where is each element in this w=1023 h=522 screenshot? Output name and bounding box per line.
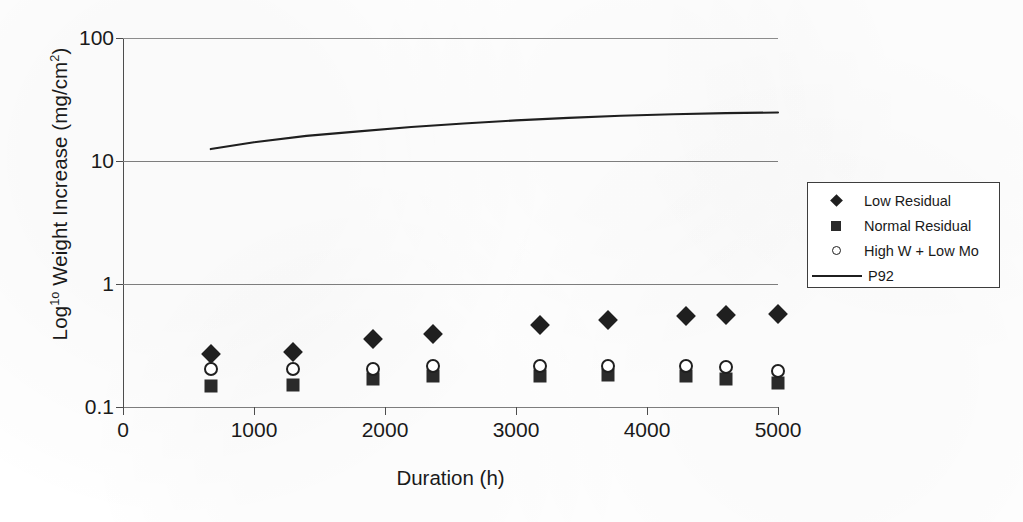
y-axis-title: Log1o Weight Increase (mg/cm2)	[48, 0, 72, 404]
x-tick-4000	[647, 407, 648, 415]
legend-label: Normal Residual	[864, 218, 971, 234]
legend-key-line-icon	[808, 275, 868, 277]
data-point-high-w-low-mo	[601, 359, 615, 373]
y-tick-0.1	[116, 407, 123, 408]
x-tick-5000	[778, 407, 779, 415]
gridline-y-0.1	[123, 407, 778, 408]
y-axis-title-text: Log1o Weight Increase (mg/cm2)	[48, 48, 71, 341]
legend-item-high-w-low-mo[interactable]: High W + Low Mo	[808, 238, 999, 263]
y-tick-label-10: 10	[91, 149, 114, 173]
y-tick-label-1: 1	[102, 272, 114, 296]
data-point-high-w-low-mo	[286, 362, 300, 376]
legend-key-open-circle-icon	[808, 246, 864, 255]
series-p92-line	[123, 38, 778, 407]
legend-glyph-filled-diamond-icon	[830, 194, 843, 207]
legend-label: High W + Low Mo	[864, 243, 979, 259]
chart-legend: Low ResidualNormal ResidualHigh W + Low …	[807, 182, 1000, 288]
legend-label: Low Residual	[864, 193, 951, 209]
data-point-normal-residual	[719, 373, 732, 386]
data-point-normal-residual	[204, 380, 217, 393]
x-tick-0	[123, 407, 124, 415]
y-tick-label-100: 100	[79, 26, 114, 50]
data-point-high-w-low-mo	[533, 359, 547, 373]
y-tick-label-0.1: 0.1	[85, 395, 114, 419]
data-point-high-w-low-mo	[771, 364, 785, 378]
legend-key-filled-diamond-icon	[808, 196, 864, 205]
data-point-high-w-low-mo	[679, 359, 693, 373]
y-tick-10	[116, 161, 123, 162]
p92-polyline	[211, 112, 778, 149]
y-tick-100	[116, 38, 123, 39]
legend-glyph-open-circle-icon	[832, 246, 841, 255]
legend-item-normal-residual[interactable]: Normal Residual	[808, 213, 999, 238]
plot-area: 0.1110100	[123, 38, 778, 407]
data-point-high-w-low-mo	[366, 362, 380, 376]
legend-item-p92[interactable]: P92	[808, 263, 999, 288]
x-tick-label-5000: 5000	[755, 418, 802, 442]
data-point-normal-residual	[287, 378, 300, 391]
x-tick-label-4000: 4000	[624, 418, 671, 442]
x-tick-3000	[516, 407, 517, 415]
x-tick-label-2000: 2000	[362, 418, 409, 442]
data-point-high-w-low-mo	[426, 359, 440, 373]
x-tick-label-1000: 1000	[231, 418, 278, 442]
chart-figure: Log1o Weight Increase (mg/cm2) Duration …	[0, 0, 1023, 522]
x-axis-title: Duration (h)	[123, 466, 778, 490]
x-tick-2000	[385, 407, 386, 415]
legend-glyph-line-icon	[812, 275, 862, 277]
data-point-high-w-low-mo	[719, 360, 733, 374]
x-tick-label-0: 0	[117, 418, 129, 442]
x-tick-1000	[254, 407, 255, 415]
legend-key-filled-square-icon	[808, 221, 864, 231]
legend-label: P92	[868, 268, 894, 284]
x-tick-label-3000: 3000	[493, 418, 540, 442]
y-tick-1	[116, 284, 123, 285]
legend-item-low-residual[interactable]: Low Residual	[808, 188, 999, 213]
legend-glyph-filled-square-icon	[831, 221, 841, 231]
